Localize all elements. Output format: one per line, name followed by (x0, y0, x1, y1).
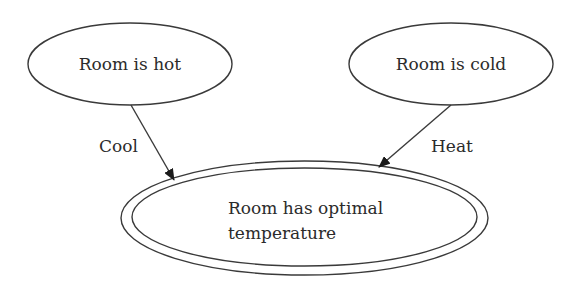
node-cold-label: Room is cold (396, 54, 507, 74)
edge-heat: Heat (379, 105, 473, 167)
node-hot-label: Room is hot (79, 54, 182, 74)
edge-cool-label: Cool (99, 136, 138, 156)
node-room-is-hot: Room is hot (28, 23, 232, 105)
node-room-has-optimal-temperature: Room has optimal temperature (121, 161, 488, 275)
node-room-is-cold: Room is cold (349, 23, 553, 105)
edge-heat-label: Heat (431, 136, 473, 156)
node-optimal-label-line2: temperature (228, 223, 336, 243)
node-optimal-label-line1: Room has optimal (228, 198, 383, 218)
edge-cool: Cool (99, 105, 174, 180)
state-diagram: Room is hot Room is cold Room has optima… (0, 0, 583, 281)
